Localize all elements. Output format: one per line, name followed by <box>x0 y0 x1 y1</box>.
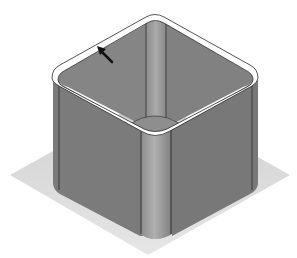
back-inner-column <box>146 21 166 119</box>
box-diagram <box>0 0 297 258</box>
front-corner-column <box>140 128 172 239</box>
box-figure: Isometric 3D render of an open square bo… <box>0 0 297 258</box>
